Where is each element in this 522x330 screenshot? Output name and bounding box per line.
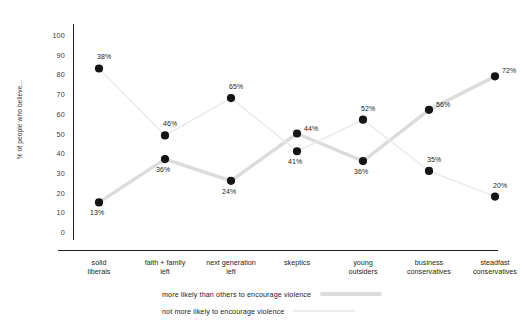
value-label-s0-3: 44% — [304, 125, 318, 132]
legend-swatch-thin-line — [293, 310, 355, 312]
value-label-s0-6: 72% — [502, 67, 516, 74]
data-point-s0-0 — [95, 198, 103, 206]
value-label-s1-6: 20% — [493, 182, 507, 189]
data-point-s0-6 — [491, 72, 499, 80]
value-label-s0-1: 36% — [156, 166, 170, 173]
value-label-s0-2: 24% — [222, 188, 236, 195]
data-point-s0-1 — [161, 155, 169, 163]
data-point-s1-0 — [95, 64, 103, 72]
value-label-s0-0: 13% — [90, 209, 104, 216]
data-point-s0-2 — [227, 177, 235, 185]
series-line-0 — [99, 76, 495, 202]
data-point-s1-6 — [491, 192, 499, 200]
value-label-s1-4: 52% — [361, 105, 375, 112]
value-label-s1-0: 38% — [97, 53, 111, 60]
value-label-s1-5: 35% — [427, 156, 441, 163]
data-point-s0-4 — [359, 157, 367, 165]
data-point-s1-5 — [425, 167, 433, 175]
data-point-s0-3 — [293, 129, 301, 137]
data-point-s1-3 — [293, 147, 301, 155]
data-point-s1-4 — [359, 116, 367, 124]
value-label-s1-1: 46% — [163, 120, 177, 127]
legend-entry-not-more-likely: not more likely to encourage violence — [162, 305, 355, 317]
value-label-s1-2: 65% — [229, 83, 243, 90]
data-point-s1-2 — [227, 94, 235, 102]
value-label-s0-4: 36% — [354, 168, 368, 175]
legend-label: more likely than others to encourage vio… — [162, 290, 311, 299]
legend-label: not more likely to encourage violence — [162, 307, 284, 316]
legend-swatch-thick-line — [320, 292, 382, 295]
legend-entry-more-likely: more likely than others to encourage vio… — [162, 288, 382, 300]
value-label-s1-3: 41% — [288, 158, 302, 165]
data-point-s0-5 — [425, 106, 433, 114]
value-label-s0-5: 56% — [436, 101, 450, 108]
data-point-s1-1 — [161, 131, 169, 139]
